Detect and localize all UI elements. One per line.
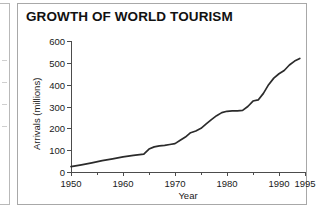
x-axis-title: Year: [178, 190, 197, 201]
y-axis-title: Arrivals (millions): [31, 78, 42, 150]
tourism-line-series: [0, 0, 327, 211]
plot-area: 0100200300400500600195019601970198019901…: [0, 0, 327, 211]
figure-root: GROWTH OF WORLD TOURISM 0100200300400500…: [0, 0, 327, 211]
